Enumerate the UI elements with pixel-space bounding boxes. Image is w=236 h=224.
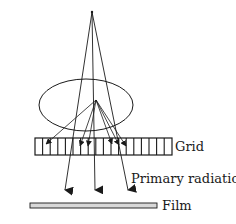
film-label: Film (162, 199, 192, 212)
primary-radiation-label: Primary radiation (131, 172, 236, 185)
film-strip (30, 203, 157, 208)
scatter-ray (96, 100, 112, 144)
primary-ray-right (92, 12, 128, 190)
grid-label: Grid (175, 140, 204, 153)
primary-ray-left (65, 12, 92, 190)
patient-body-ellipse (39, 79, 133, 131)
anti-scatter-grid (35, 138, 172, 155)
scatter-grid-diagram: Grid Primary radiation Film (0, 0, 236, 224)
diagram-canvas (0, 0, 236, 224)
